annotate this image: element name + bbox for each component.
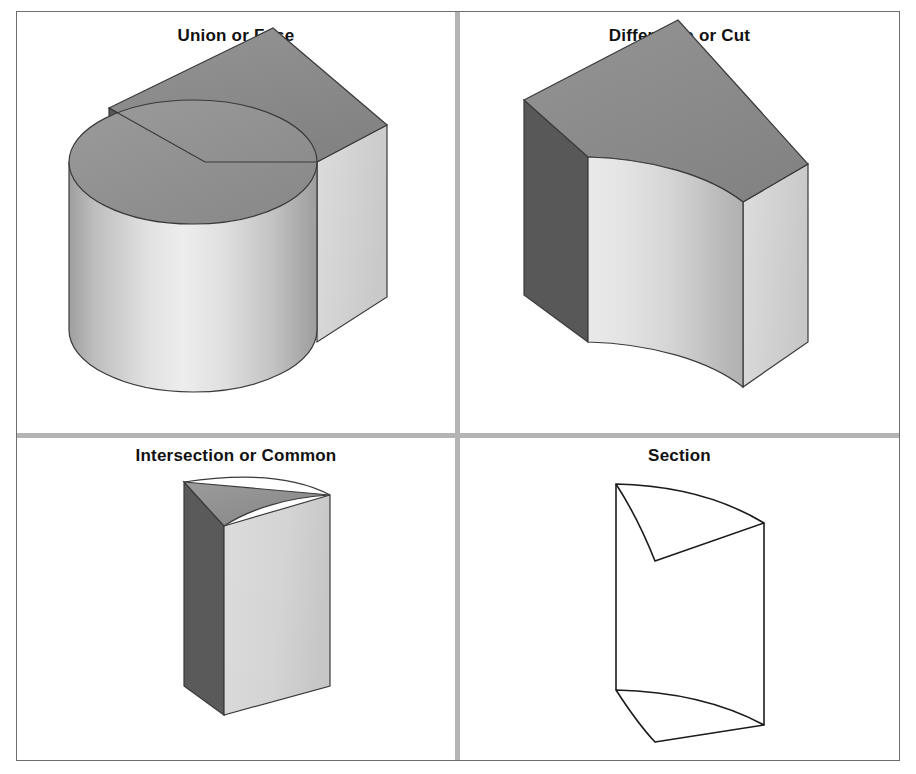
panel-intersection: Intersection or Common (17, 438, 455, 760)
intersection-right-face (224, 495, 330, 715)
section-top-face (616, 484, 764, 561)
section-bottom-face (616, 690, 764, 742)
intersection-illustration (17, 438, 455, 760)
union-box-right-face (317, 125, 387, 342)
figure-difference (460, 12, 899, 433)
figure-union (17, 12, 455, 433)
panel-section: Section (460, 438, 899, 760)
difference-concave-surface (588, 157, 743, 387)
figure-section (460, 438, 899, 760)
union-illustration (17, 12, 455, 433)
panel-difference: Difference or Cut (460, 12, 899, 433)
difference-illustration (460, 12, 899, 433)
difference-right-face (743, 164, 808, 387)
section-illustration (460, 438, 899, 760)
diagram-page: Union or Fuse (0, 0, 916, 774)
panel-union: Union or Fuse (17, 12, 455, 433)
figure-intersection (17, 438, 455, 760)
